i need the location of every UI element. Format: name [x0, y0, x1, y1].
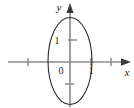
x-axis-arrowhead: [121, 58, 131, 66]
graph-figure: y x 0 1 1: [0, 0, 134, 108]
y-unit-label: 1: [55, 35, 60, 46]
x-unit-label: 1: [89, 65, 94, 76]
y-axis-label: y: [56, 1, 62, 13]
y-axis-arrowhead: [66, 3, 73, 13]
x-axis-label: x: [124, 66, 130, 78]
origin-label: 0: [59, 65, 64, 76]
coordinate-plot: y x 0 1 1: [0, 0, 134, 108]
